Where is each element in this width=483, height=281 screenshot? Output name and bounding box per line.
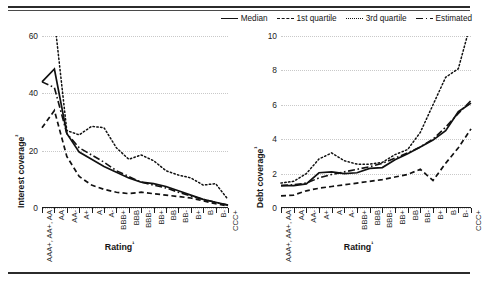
legend-swatch-icon: [277, 15, 294, 22]
legend-label: Estimated: [436, 14, 472, 23]
chart-legend: Median1st quartile3rd quartileEstimated: [196, 12, 472, 25]
x-axis-tick-label: A-: [347, 210, 356, 218]
x-axis-tick-label: B+: [436, 210, 445, 220]
x-axis-tick-label: BB: [411, 210, 420, 220]
x-axis-tick-label: B-: [219, 210, 228, 218]
y-axis-tick-label: 4: [272, 134, 277, 144]
header-divider-thin: [8, 10, 470, 11]
x-axis-tick-label: A: [335, 210, 344, 215]
x-axis-tick-label: B: [206, 210, 215, 215]
x-axis-tick: [228, 208, 229, 213]
header-divider: [8, 6, 470, 8]
x-axis-tick-label: A-: [107, 210, 116, 218]
x-axis-tick-label: AA: [297, 210, 306, 220]
chart-panel-interest-coverage: Interest coverage² 0204060 AAA+, AA+, AA…: [0, 28, 239, 273]
legend-item-median: Median: [221, 14, 268, 23]
series-lines: [281, 36, 471, 208]
x-axis-tick-label: BB: [169, 210, 178, 220]
y-axis-tick-label: 8: [272, 65, 277, 75]
x-axis-tick-label: A+: [322, 210, 331, 220]
x-axis-tick-label: A: [95, 210, 104, 215]
x-axis-tick-label: AA-: [70, 210, 79, 223]
legend-label: Median: [241, 14, 268, 23]
x-axis-title-right: Rating¹: [239, 240, 478, 252]
x-axis-tick-label: BBB: [373, 210, 382, 225]
plot-area-right: 0246810: [281, 36, 471, 208]
series-line-3rd-quartile: [42, 13, 228, 199]
series-line-estimated: [42, 82, 228, 205]
x-axis-tick-label: A+: [82, 210, 91, 220]
x-axis-tick-label: AA-: [309, 210, 318, 223]
x-axis-tick-label: BBB+: [360, 210, 369, 230]
y-axis-tick-label: 40: [29, 88, 38, 98]
y-axis-label-right: Debt coverage³: [253, 147, 265, 208]
legend-label: 3rd quartile: [366, 14, 407, 23]
legend-item-estimated: Estimated: [416, 14, 472, 23]
x-axis-tick-label: BBB-: [385, 210, 394, 228]
x-axis-title-left: Rating¹: [0, 240, 239, 252]
y-axis-tick-label: 0: [33, 203, 38, 213]
x-axis-tick-label: CCC+: [474, 210, 483, 231]
y-axis-tick-label: 20: [29, 146, 38, 156]
series-line-median: [281, 103, 471, 186]
x-axis-tick-labels-right: AAA+, AA+, AAAAAA-A+AA-BBB+BBBBBB-BB+BBB…: [281, 210, 471, 266]
legend-item-1st-quartile: 1st quartile: [277, 14, 337, 23]
series-line-estimated: [281, 101, 471, 186]
series-line-1st-quartile: [42, 111, 228, 206]
x-axis-tick-labels-left: AAA+, AA+, AAAAAA-A+AA-BBB+BBBBBB-BB+BBB…: [42, 210, 228, 266]
y-axis-tick-label: 60: [29, 31, 38, 41]
y-axis-tick-label: 10: [268, 31, 277, 41]
x-axis-tick-label: AAA+, AA+, AA: [45, 210, 54, 262]
x-axis-tick-label: BB+: [157, 210, 166, 225]
x-axis-tick-label: B-: [461, 210, 470, 218]
y-axis-tick-label: 6: [272, 100, 277, 110]
series-lines: [42, 36, 228, 208]
legend-item-3rd-quartile: 3rd quartile: [346, 14, 407, 23]
x-axis-tick-label: BB+: [398, 210, 407, 225]
x-axis-tick-label: B+: [194, 210, 203, 220]
x-axis-tick-label: AA: [57, 210, 66, 220]
y-axis-label-left: Interest coverage²: [14, 135, 26, 208]
x-axis-tick-label: BBB+: [119, 210, 128, 230]
x-axis-tick-label: B: [449, 210, 458, 215]
x-axis-tick-label: BB-: [181, 210, 190, 223]
y-axis-tick-label: 0: [272, 203, 277, 213]
legend-swatch-icon: [416, 15, 433, 22]
legend-swatch-icon: [346, 15, 363, 22]
x-axis-tick-label: BBB-: [144, 210, 153, 228]
plot-area-left: 0204060: [42, 36, 228, 208]
x-axis-tick-label: AAA+, AA+, AA: [284, 210, 293, 262]
footer-divider: [8, 272, 470, 274]
y-axis-tick-label: 2: [272, 169, 277, 179]
legend-swatch-icon: [221, 15, 238, 22]
x-axis-tick: [471, 208, 472, 213]
series-line-1st-quartile: [281, 129, 471, 196]
legend-label: 1st quartile: [297, 14, 337, 23]
chart-panel-debt-coverage: Debt coverage³ 0246810 AAA+, AA+, AAAAAA…: [239, 28, 478, 273]
series-line-3rd-quartile: [281, 22, 471, 183]
x-axis-tick-label: BB-: [423, 210, 432, 223]
x-axis-tick-label: BBB: [132, 210, 141, 225]
